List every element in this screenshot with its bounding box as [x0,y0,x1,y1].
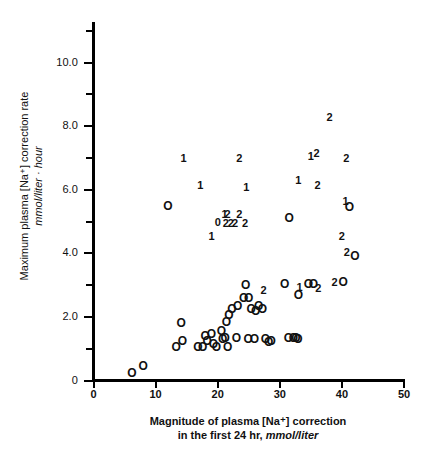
data-point-count: 2 [344,246,350,257]
data-point-count: 2 [326,111,332,122]
data-point-count: 1 [180,152,186,163]
y-axis-title-unit: mmol/liter · hour [32,146,44,225]
data-point-count: 2 [343,152,349,163]
data-point-count: 2 [331,276,337,287]
data-point-count: 1 [197,179,203,190]
data-point-circle: O [338,276,347,287]
data-point-circle: O [163,200,172,211]
data-point-count: 2 [315,283,321,294]
data-point-circle: O [258,303,267,314]
data-point-count: 1 [295,175,301,186]
data-point-circle: O [232,332,241,343]
data-point-count: 2 [339,230,345,241]
y-axis-title-main: Maximum plasma [Na⁺] correction rate [18,92,30,281]
scatter-plot-figure: 02.04.06.08.010.0 01020304050 OOOOOOOOOO… [0,0,440,452]
data-point-count: 1 [297,281,303,292]
data-point-count: 2 [232,218,238,229]
data-point-circle: O [266,335,275,346]
data-point-count: 2 [261,284,267,295]
data-point-count: 1 [208,230,214,241]
data-point-circle: O [178,335,187,346]
data-point-circle: O [350,251,359,262]
data-point-count: 2 [236,152,242,163]
x-axis-title-main: Magnitude of plasma [Na⁺] correction [150,415,347,427]
x-axis-title-unit: mmol/liter [266,429,319,441]
data-point-count: 1 [243,181,249,192]
data-point-count: 0 [215,216,221,227]
data-point-count: 2 [242,218,248,229]
data-point-circle: O [139,361,148,372]
data-point-circle: O [293,334,302,345]
data-point-count: 2 [315,179,321,190]
plot-data-area: OOOOOOOOOOOOOOOOOOOOOOOOOOOOOO2OOOOOOOOO… [0,0,440,452]
data-point-circle: O [280,278,289,289]
data-point-count: 2 [313,148,319,159]
x-axis-title: Magnitude of plasma [Na⁺] correction in … [92,414,404,442]
data-point-circle: O [127,367,136,378]
data-point-circle: O [345,202,354,213]
x-axis-title-prefix: in the first 24 hr, [178,429,266,441]
data-point-circle: O [284,213,293,224]
y-axis-title: Maximum plasma [Na⁺] correction rate mmo… [17,71,45,301]
data-point-circle: O [176,318,185,329]
data-point-circle: O [241,280,250,291]
data-point-circle: O [250,334,259,345]
